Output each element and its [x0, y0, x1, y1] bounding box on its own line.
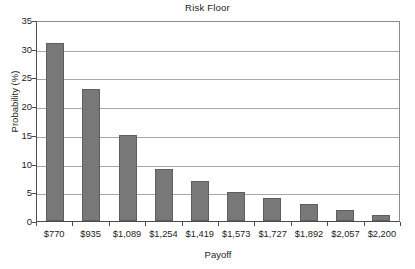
- x-axis-tick-label: $935: [72, 228, 108, 242]
- x-axis-tick-mark: [327, 222, 328, 226]
- y-axis-tick-label: 25: [6, 73, 32, 83]
- bar[interactable]: [46, 43, 64, 221]
- bar-slot: [254, 22, 290, 221]
- bar[interactable]: [155, 169, 173, 221]
- x-axis-tick-mark: [254, 222, 255, 226]
- bar-slot: [218, 22, 254, 221]
- bar-slot: [182, 22, 218, 221]
- bar-slot: [363, 22, 399, 221]
- x-axis-tick-mark: [109, 222, 110, 226]
- x-axis-tick-label: $1,727: [254, 228, 290, 242]
- x-axis-tick-mark: [36, 222, 37, 226]
- y-axis-tick-label: 35: [6, 16, 32, 26]
- x-axis-tick-mark: [182, 222, 183, 226]
- x-axis-tick-mark: [291, 222, 292, 226]
- bars-layer: [37, 22, 399, 221]
- bar[interactable]: [119, 135, 137, 221]
- y-axis-tick-label: 10: [6, 160, 32, 170]
- x-axis-tick-mark: [400, 222, 401, 226]
- x-axis-tick-label: $2,057: [327, 228, 363, 242]
- x-axis-tick-label: $1,892: [291, 228, 327, 242]
- bar-slot: [146, 22, 182, 221]
- bar[interactable]: [372, 215, 390, 221]
- x-axis-tick-label: $1,419: [182, 228, 218, 242]
- y-axis-tick-label: 30: [6, 45, 32, 55]
- x-axis-tick-mark: [218, 222, 219, 226]
- bar[interactable]: [191, 181, 209, 221]
- x-axis-tick-mark: [72, 222, 73, 226]
- bar[interactable]: [227, 192, 245, 221]
- x-axis-tick-label: $770: [36, 228, 72, 242]
- bar-slot: [73, 22, 109, 221]
- chart-container: Risk Floor Probability (%) 0510152025303…: [0, 0, 415, 269]
- y-axis-tick-label: 5: [6, 188, 32, 198]
- x-axis-tick-mark: [145, 222, 146, 226]
- bar[interactable]: [336, 210, 354, 221]
- bar-slot: [109, 22, 145, 221]
- x-axis-title: Payoff: [36, 249, 400, 260]
- y-axis-tick-label: 15: [6, 131, 32, 141]
- chart-title: Risk Floor: [0, 2, 415, 14]
- x-axis-tick-labels: $770$935$1,089$1,254$1,419$1,573$1,727$1…: [36, 228, 400, 242]
- x-axis-tick-mark: [364, 222, 365, 226]
- x-axis-tick-label: $1,254: [145, 228, 181, 242]
- bar[interactable]: [263, 198, 281, 221]
- x-axis-ticks: [36, 222, 400, 227]
- bar-slot: [327, 22, 363, 221]
- y-axis-tick-label: 0: [6, 217, 32, 227]
- y-axis-ticks: 05101520253035: [0, 21, 32, 222]
- x-axis-tick-label: $1,573: [218, 228, 254, 242]
- bar-slot: [290, 22, 326, 221]
- y-axis-tick-label: 20: [6, 102, 32, 112]
- bar[interactable]: [300, 204, 318, 221]
- plot-area: [36, 21, 400, 222]
- bar[interactable]: [82, 89, 100, 221]
- x-axis-tick-label: $1,089: [109, 228, 145, 242]
- bar-slot: [37, 22, 73, 221]
- x-axis-tick-label: $2,200: [364, 228, 400, 242]
